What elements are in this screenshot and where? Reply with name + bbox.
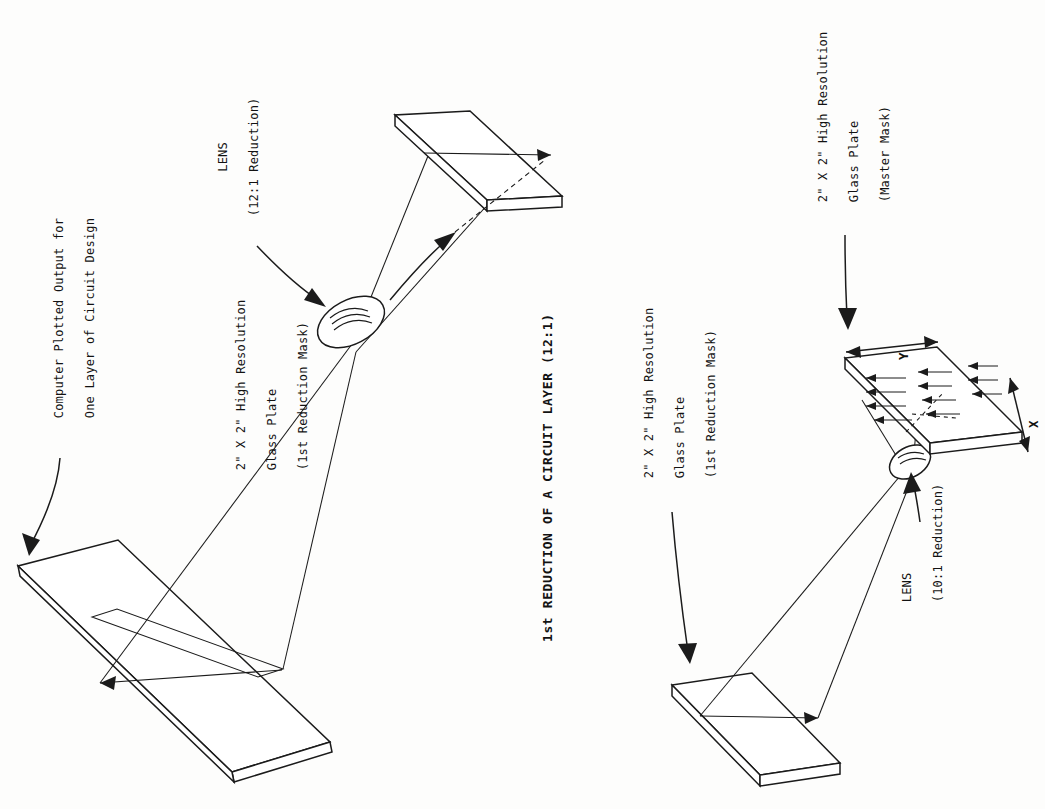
label-plotted-output-line1: Computer Plotted Output for — [52, 218, 66, 418]
label-plate-first-reduction-top: 2" X 2" High Resolution Glass Plate (1st… — [218, 300, 327, 500]
label-plate-top-line3: (1st Reduction Mask) — [296, 322, 310, 471]
label-lens-10to1-line2: (10:1 Reduction) — [931, 484, 945, 603]
label-plate-bottom-line1: 2" X 2" High Resolution — [642, 308, 656, 479]
glass-plate-master-mask — [845, 347, 1022, 454]
label-axis-x: X — [1026, 419, 1042, 428]
label-plotted-output: Computer Plotted Output for One Layer of… — [36, 218, 114, 448]
arrow-to-master-mask — [838, 235, 857, 330]
glass-plate-first-reduction-bottom — [672, 673, 840, 786]
label-lens-12to1-line2: (12:1 Reduction) — [247, 98, 261, 217]
label-lens-12to1-line1: LENS — [216, 142, 230, 172]
label-axis-y: Y — [896, 351, 912, 360]
arrow-to-plate-bottom — [672, 512, 697, 664]
label-lens-10to1-line1: LENS — [900, 573, 914, 603]
label-plate-bottom-line3: (1st Reduction Mask) — [704, 330, 718, 479]
figure-title: 1st REDUCTION OF A CIRCUIT LAYER (12:1) — [540, 313, 556, 642]
label-master-mask-line3: (Master Mask) — [878, 106, 892, 203]
label-plate-top-line2: Glass Plate — [265, 389, 279, 471]
label-plate-top-line1: 2" X 2" High Resolution — [234, 300, 248, 471]
label-master-mask-line2: Glass Plate — [847, 121, 861, 203]
label-plotted-output-line2: One Layer of Circuit Design — [83, 218, 97, 418]
label-plate-master-mask: 2" X 2" High Resolution Glass Plate (Mas… — [800, 32, 909, 232]
arrow-to-lens-top — [257, 246, 326, 307]
label-plate-first-reduction-bottom: 2" X 2" High Resolution Glass Plate (1st… — [626, 308, 735, 508]
label-plate-bottom-line2: Glass Plate — [673, 397, 687, 479]
label-master-mask-line1: 2" X 2" High Resolution — [816, 32, 830, 203]
label-lens-12to1: LENS (12:1 Reduction) — [200, 98, 278, 247]
arrow-to-plate-top — [390, 232, 456, 300]
label-lens-10to1: LENS (10:1 Reduction) — [884, 484, 962, 633]
figure-canvas: Computer Plotted Output for One Layer of… — [0, 0, 1045, 809]
arrow-to-plotted-output — [22, 458, 60, 556]
glass-plate-first-reduction-top — [395, 111, 562, 232]
